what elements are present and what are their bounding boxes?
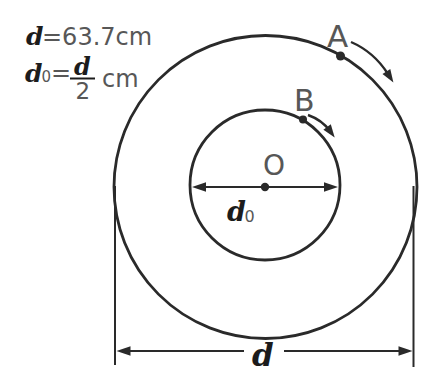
formula-line2: d 0 = d 2 cm [25,52,139,104]
formula2-equals-sign: = [51,59,71,87]
diagram-canvas: d =63.7cm d 0 = d 2 cm A B O d 0 d [0,0,438,384]
center-o-label: O [263,149,285,182]
inner-diameter-label-symbol: d [227,196,246,227]
formula1-value: =63.7cm [42,23,152,51]
formula-line1: d =63.7cm [26,22,152,51]
formula1-symbol-d: d [26,22,43,51]
outer-dimension-arrowhead-left-icon [117,346,131,356]
rotation-arrow-a-shaft [351,42,388,74]
inner-dimension-arrowhead-right-icon [324,182,338,192]
point-b-label: B [294,83,315,118]
point-a-label: A [327,18,348,54]
rotation-arrow-a-icon [351,42,393,82]
formula2-subscript: 0 [42,68,52,86]
outer-dimension-arrowhead-right-icon [399,346,413,356]
fraction-denominator-2: 2 [76,78,91,104]
inner-diameter-label: d 0 [227,196,255,227]
center-point-marker [261,183,269,191]
formula2-symbol-d: d [25,59,42,88]
inner-diameter-label-subscript: 0 [245,207,255,226]
outer-diameter-label: d [252,337,274,373]
inner-dimension-arrowhead-left-icon [192,182,206,192]
formula2-unit: cm [102,65,139,93]
concentric-circles-figure: d =63.7cm d 0 = d 2 cm A B O d 0 d [0,0,438,384]
rotation-arrow-a-head [383,69,394,83]
fraction-numerator-d: d [74,52,91,81]
